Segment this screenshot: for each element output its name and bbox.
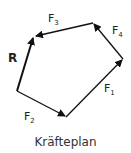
diagram-caption: Kräfteplan — [0, 135, 131, 149]
label-r: R — [8, 51, 17, 65]
vector-f3 — [36, 23, 93, 36]
vector-r — [17, 38, 33, 91]
label-f3: F3 — [48, 12, 59, 27]
label-f2: F2 — [24, 110, 35, 125]
vector-f4 — [94, 24, 123, 59]
force-polygon: F3 F4 R F1 F2 — [0, 0, 131, 153]
label-f4: F4 — [112, 24, 123, 39]
label-f1: F1 — [104, 82, 115, 97]
